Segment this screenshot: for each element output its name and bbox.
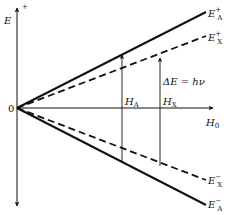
line-ea-plus: [17, 12, 206, 108]
label-hx: HX: [162, 96, 177, 109]
line-ex-plus: [17, 36, 206, 108]
label-ea-minus: E−A: [207, 197, 223, 213]
field-axis-label: H0: [205, 117, 219, 130]
label-ea-plus: E+A: [207, 6, 223, 22]
line-ex-minus: [17, 108, 206, 180]
energy-equation: ΔE = hν: [162, 76, 205, 87]
label-ex-minus: E−X: [207, 173, 222, 189]
label-ex-plus: E+X: [207, 30, 222, 46]
energy-level-diagram: E + 0 H0 E+A E+X E−X E−A HA HX ΔE = hν: [0, 0, 228, 215]
label-ha: HA: [124, 96, 140, 109]
line-ea-minus: [17, 108, 206, 205]
energy-axis-label: E: [3, 15, 12, 26]
energy-axis-plus: +: [22, 3, 28, 11]
origin-label: 0: [8, 103, 14, 114]
